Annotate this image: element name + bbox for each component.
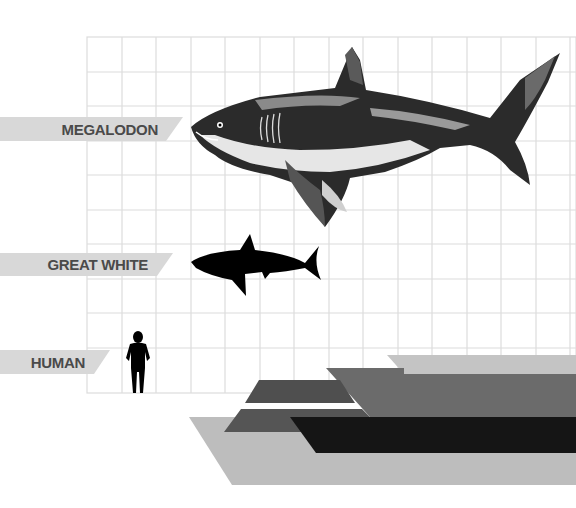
label-megalodon: MEGALODON [0, 117, 183, 141]
band-dark-upper [245, 380, 355, 403]
megalodon-illustration-icon [191, 47, 560, 227]
band-light-top [387, 355, 576, 374]
band-mid-right [326, 368, 576, 417]
label-human: HUMAN [0, 350, 110, 374]
human-silhouette-icon [126, 331, 150, 393]
size-comparison-diagram: MEGALODON GREAT WHITE HUMAN [0, 0, 576, 508]
label-great-white: GREAT WHITE [0, 253, 173, 276]
label-text-great-white: GREAT WHITE [47, 256, 148, 273]
label-text-human: HUMAN [31, 354, 85, 371]
decorative-bands [189, 355, 576, 485]
great-white-silhouette-icon [191, 234, 321, 296]
band-black [290, 417, 576, 453]
label-text-megalodon: MEGALODON [62, 121, 158, 138]
